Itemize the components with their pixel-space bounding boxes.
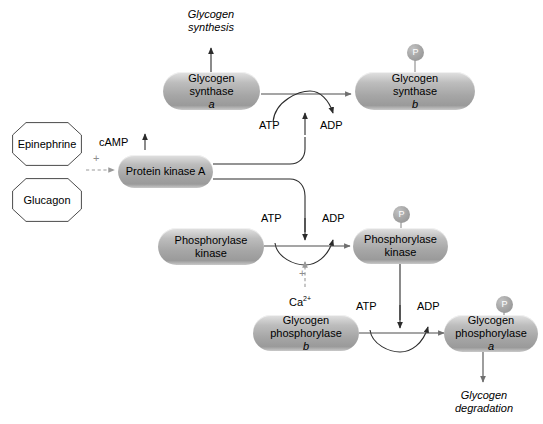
phosphate-icon-glycogen-phosphorylase-a: P [496, 296, 513, 313]
node-phosphorylase-kinase-active-line1: Phosphorylase [364, 233, 437, 246]
outcome-glycogen-degradation: Glycogen degradation [444, 389, 524, 415]
activation-plus-calcium: + [299, 267, 305, 279]
node-glycogen-phosphorylase-b-form: b [303, 340, 309, 352]
outcome-glycogen-synthesis-line2: synthesis [176, 21, 246, 34]
phosphate-icon-glycogen-synthase-b: P [407, 44, 424, 61]
outcome-glycogen-synthesis-line1: Glycogen [176, 8, 246, 21]
node-glycogen-synthase-a[interactable]: Glycogen synthase a [163, 72, 260, 110]
node-glycogen-phosphorylase-b-line1: Glycogen [270, 314, 342, 327]
node-protein-kinase-a-line1: Protein kinase A [126, 165, 206, 178]
outcome-glycogen-degradation-line2: degradation [444, 402, 524, 415]
line-pka-branch-up [213, 137, 305, 164]
node-glycogen-phosphorylase-a-line1: Glycogen [455, 314, 527, 327]
node-glycogen-phosphorylase-b-line2: phosphorylase b [270, 327, 342, 353]
outcome-glycogen-synthesis: Glycogen synthesis [176, 8, 246, 34]
node-glycogen-phosphorylase-a-form: a [488, 340, 494, 352]
node-glycogen-synthase-a-form: a [208, 98, 214, 110]
node-phosphorylase-kinase-inactive-line2: kinase [175, 247, 248, 260]
calcium-charge: 2+ [303, 295, 311, 302]
line-pka-branch-down [213, 179, 305, 232]
activation-plus-hormones: + [93, 152, 99, 164]
node-glycogen-synthase-b-line2: synthase b [392, 85, 438, 111]
calcium-label: Ca2+ [289, 292, 311, 309]
hormone-label-glucagon: Glucagon [12, 178, 82, 222]
node-glycogen-synthase-a-line1: Glycogen [188, 72, 234, 85]
node-phosphorylase-kinase-active[interactable]: Phosphorylase kinase [353, 228, 448, 264]
hormone-label-epinephrine: Epinephrine [12, 122, 82, 166]
cofactor-label-adp-middle: ADP [322, 212, 345, 225]
node-glycogen-synthase-b-form: b [412, 98, 418, 110]
cofactor-label-atp-top: ATP [259, 119, 280, 132]
hormone-node-glucagon[interactable]: Glucagon [12, 178, 82, 222]
node-glycogen-synthase-b[interactable]: Glycogen synthase b [355, 72, 475, 110]
outcome-glycogen-degradation-line1: Glycogen [444, 389, 524, 402]
node-glycogen-phosphorylase-b[interactable]: Glycogen phosphorylase b [253, 315, 359, 351]
curve-adp-middle [305, 240, 333, 265]
phosphate-icon-phosphorylase-kinase: P [393, 206, 410, 223]
node-glycogen-synthase-b-line1: Glycogen [392, 72, 438, 85]
cofactor-label-atp-middle: ATP [261, 212, 282, 225]
hormone-node-epinephrine[interactable]: Epinephrine [12, 122, 82, 166]
cofactor-label-adp-top: ADP [320, 119, 343, 132]
node-glycogen-synthase-a-line2: synthase a [188, 85, 234, 111]
calcium-symbol: Ca [289, 296, 303, 308]
cofactor-label-adp-bottom: ADP [417, 300, 440, 313]
node-phosphorylase-kinase-inactive-line1: Phosphorylase [175, 234, 248, 247]
node-glycogen-phosphorylase-a[interactable]: Glycogen phosphorylase a [444, 315, 538, 352]
curve-adp-bottom [400, 327, 428, 352]
node-phosphorylase-kinase-inactive[interactable]: Phosphorylase kinase [158, 228, 264, 265]
cofactor-label-atp-bottom: ATP [356, 300, 377, 313]
node-protein-kinase-a[interactable]: Protein kinase A [118, 155, 213, 188]
node-phosphorylase-kinase-active-line2: kinase [364, 246, 437, 259]
pathway-diagram-canvas: Epinephrine Glucagon + cAMP ↑ Glycogen s… [0, 0, 543, 424]
camp-label: cAMP ↑ [99, 136, 137, 149]
node-glycogen-phosphorylase-a-line2: phosphorylase a [455, 327, 527, 353]
